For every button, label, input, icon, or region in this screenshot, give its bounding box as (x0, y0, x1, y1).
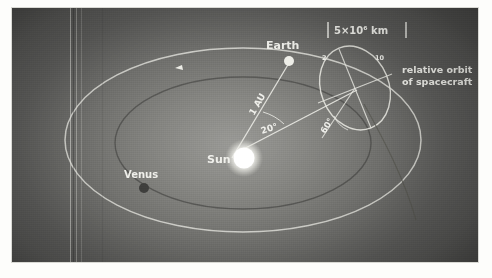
film-grain (12, 8, 478, 262)
figure-canvas: Earth Sun Venus 1 AU 20° 60° 5×10⁶ km 2 … (0, 0, 492, 278)
film-frame: Earth Sun Venus 1 AU 20° 60° 5×10⁶ km 2 … (12, 8, 478, 262)
